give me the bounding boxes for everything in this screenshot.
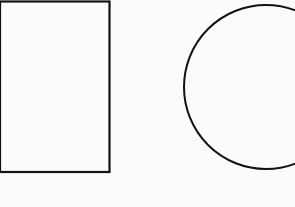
rectangle-shape (0, 2, 110, 173)
circle-shape (184, 5, 295, 169)
diagram-canvas (0, 0, 295, 207)
